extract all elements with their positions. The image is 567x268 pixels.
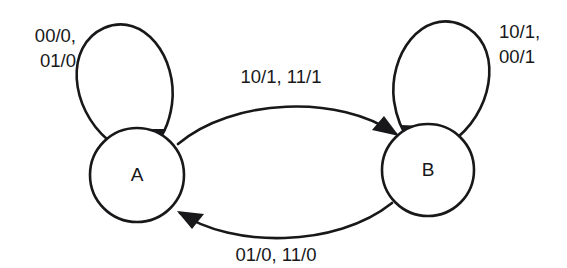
state-diagram: A B 00/0, 01/0 10/1, 11/1 10/1, 00/1 01/…	[0, 0, 567, 268]
transition-label-b-self-line1: 10/1,	[499, 21, 540, 42]
transition-label-a-self-line2: 01/0	[40, 50, 76, 71]
edge-path-b-to-a	[180, 203, 392, 238]
transition-a-to-b	[178, 107, 399, 144]
arrowhead-a-to-b	[372, 116, 399, 136]
transition-b-to-a	[177, 203, 392, 238]
edge-path-a-to-b	[178, 107, 396, 144]
state-node-b[interactable]: B	[382, 124, 474, 216]
state-label-a: A	[131, 164, 144, 185]
transition-label-a-to-b: 10/1, 11/1	[241, 66, 322, 87]
state-node-a[interactable]: A	[90, 128, 184, 222]
transition-label-b-to-a: 01/0, 11/0	[236, 244, 317, 265]
arrowhead-b-to-a	[177, 211, 204, 229]
state-machine-canvas: A B 00/0, 01/0 10/1, 11/1 10/1, 00/1 01/…	[0, 0, 567, 268]
state-label-b: B	[422, 159, 435, 180]
transition-label-a-self-line1: 00/0,	[35, 25, 76, 46]
transition-label-b-self-line2: 00/1	[499, 46, 535, 67]
